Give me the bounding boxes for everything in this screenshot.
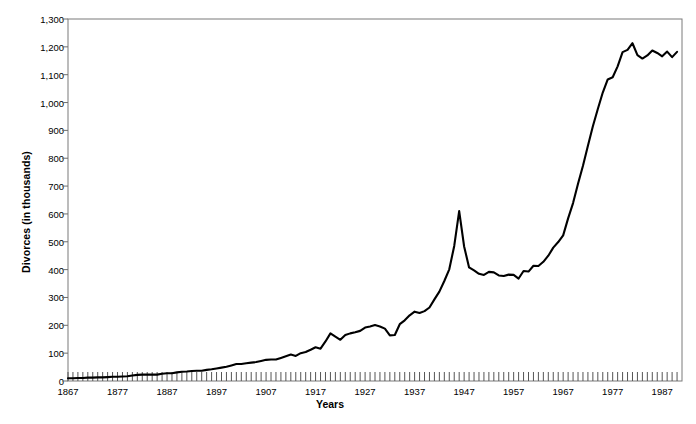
x-axis-tick-label: 1987 <box>652 386 673 397</box>
x-axis-tick-label: 1877 <box>107 386 128 397</box>
x-axis-tick-label: 1937 <box>404 386 425 397</box>
chart-figure: Divorces (in thousands) 0100200300400500… <box>0 0 696 424</box>
x-axis-tick-label: 1887 <box>156 386 177 397</box>
x-axis-tick-label: 1907 <box>255 386 276 397</box>
data-line-divorces <box>68 43 677 378</box>
x-axis-tick-label: 1917 <box>305 386 326 397</box>
x-axis-tick-label: 1957 <box>503 386 524 397</box>
x-axis-tick-label: 1977 <box>602 386 623 397</box>
x-axis-tick-label: 1967 <box>553 386 574 397</box>
x-axis-tick-label: 1897 <box>206 386 227 397</box>
x-axis-title: Years <box>0 398 696 410</box>
x-axis-title-text: Years <box>316 398 344 410</box>
x-axis-tick-label: 1867 <box>57 386 78 397</box>
plot-area <box>0 0 696 424</box>
x-axis-tick-label: 1947 <box>454 386 475 397</box>
plot-frame <box>68 19 682 381</box>
x-axis-tick-label: 1927 <box>355 386 376 397</box>
